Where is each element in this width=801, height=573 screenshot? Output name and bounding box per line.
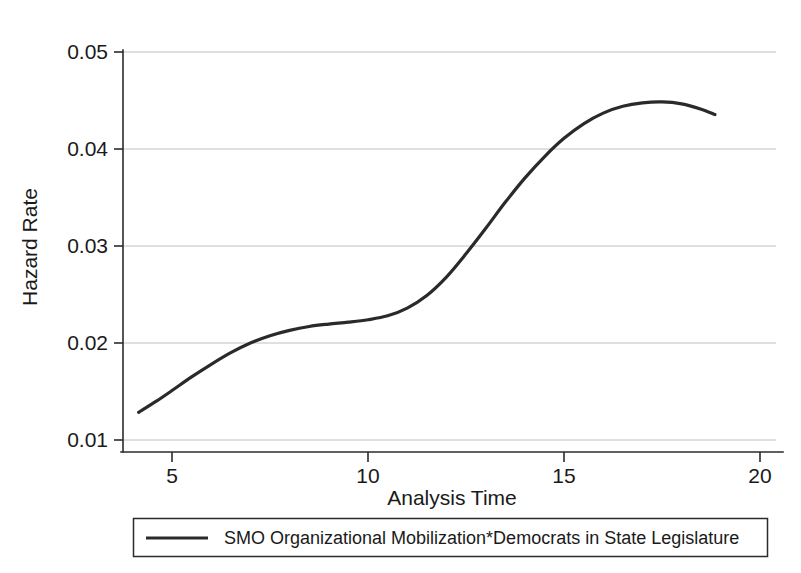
x-tick-label-10: 10 (356, 464, 379, 487)
x-tick-label-15: 15 (552, 464, 575, 487)
x-tick-label-5: 5 (166, 464, 178, 487)
chart-canvas: 0.05 0.04 0.03 0.02 0.01 Hazard Rate 5 1… (0, 0, 801, 573)
hazard-rate-chart-figure: 0.05 0.04 0.03 0.02 0.01 Hazard Rate 5 1… (0, 0, 801, 573)
x-tick-label-20: 20 (748, 464, 771, 487)
y-axis: 0.05 0.04 0.03 0.02 0.01 Hazard Rate (18, 40, 123, 452)
gridlines (123, 52, 776, 440)
y-axis-title: Hazard Rate (18, 188, 41, 306)
x-axis: 5 10 15 20 Analysis Time (121, 452, 783, 509)
y-tick-label-0.02: 0.02 (67, 331, 108, 354)
legend-label-0: SMO Organizational Mobilization*Democrat… (224, 528, 739, 548)
legend: SMO Organizational Mobilization*Democrat… (134, 519, 768, 557)
y-tick-label-0.01: 0.01 (67, 428, 108, 451)
data-series-group (139, 102, 715, 412)
y-tick-label-0.03: 0.03 (67, 234, 108, 257)
series-line-smo-organizational-mobilization (139, 102, 715, 412)
x-axis-title: Analysis Time (387, 486, 517, 509)
y-tick-label-0.04: 0.04 (67, 137, 108, 160)
y-tick-label-0.05: 0.05 (67, 40, 108, 63)
